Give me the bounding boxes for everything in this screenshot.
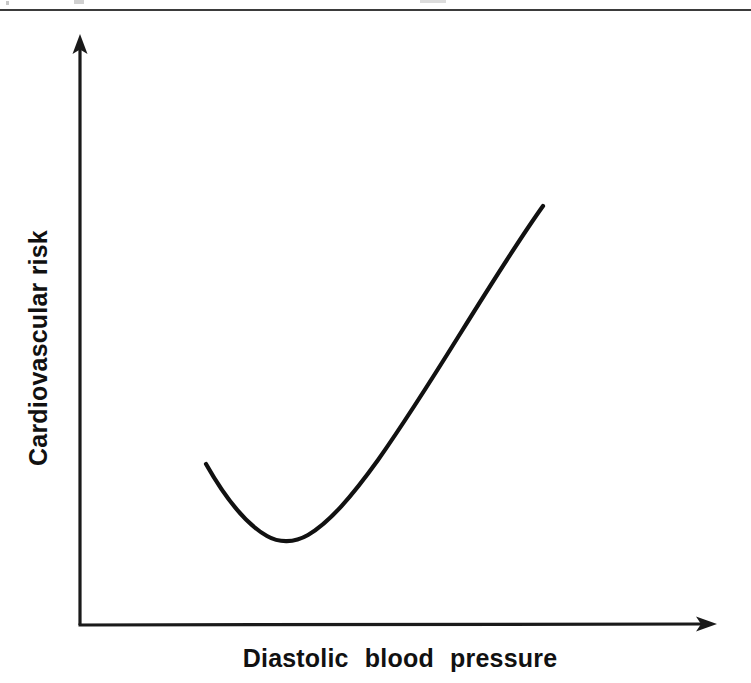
j-curve-line bbox=[206, 206, 543, 541]
x-axis-line bbox=[79, 624, 706, 625]
figure-canvas: Cardiovascular risk Diastolic blood pres… bbox=[0, 0, 751, 683]
x-axis-title: Diastolic blood pressure bbox=[243, 644, 558, 673]
plot-area bbox=[0, 0, 751, 683]
y-axis-title: Cardiovascular risk bbox=[24, 230, 53, 466]
